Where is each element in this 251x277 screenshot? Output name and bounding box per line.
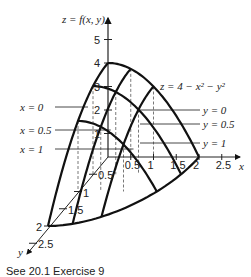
y-slice-label-1: y = 1 (202, 137, 226, 149)
y-axis-label: y (17, 246, 23, 258)
z-tick-label: 3 (94, 81, 100, 93)
y-tick-label: 0.5 (98, 169, 113, 181)
x-tick-label: 2.5 (216, 159, 231, 171)
x-slice-label-0.5: x = 0.5 (19, 124, 52, 136)
x-slice-label-1: x = 1 (19, 143, 43, 155)
x-slice-label-0: x = 0 (19, 101, 44, 113)
y-slice-label-0: y = 0 (202, 104, 227, 116)
label-leaders (55, 107, 200, 149)
x-axis-label: x (238, 160, 244, 172)
z-tick-label: 2 (94, 104, 100, 116)
y-tick-label: 2 (36, 221, 42, 233)
y-tick-label: 1.5 (68, 204, 83, 216)
x-tick-label: 2 (193, 159, 199, 171)
x-tick-label: 0.5 (125, 159, 140, 171)
figure-caption: See 20.1 Exercise 9 (6, 265, 104, 277)
tick-labels: 123450.511.522.50.511.522.5 (36, 34, 231, 251)
z-tick-label: 1 (94, 128, 100, 140)
z-tick-label: 5 (94, 34, 100, 46)
y-tick-label: 1 (83, 187, 89, 199)
surface-equation-label: z = 4 − x² − y² (159, 80, 226, 92)
x-tick-label: 1 (148, 159, 154, 171)
z-tick-label: 4 (94, 57, 100, 69)
x-tick-label: 1.5 (170, 159, 185, 171)
y-tick-label: 2.5 (38, 238, 53, 250)
y-slice-label-0.5: y = 0.5 (202, 118, 235, 130)
z-axis-label: z = f(x, y) (61, 13, 105, 26)
